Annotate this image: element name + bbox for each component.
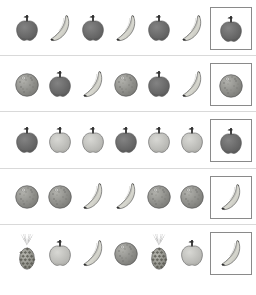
pattern-item bbox=[76, 173, 109, 219]
orange-icon bbox=[14, 181, 40, 211]
pattern-item bbox=[10, 173, 43, 219]
pattern-item bbox=[109, 5, 142, 51]
banana-icon bbox=[179, 13, 205, 43]
apple-dark-icon bbox=[146, 69, 172, 99]
apple-dark-icon bbox=[218, 14, 244, 44]
pattern-item bbox=[43, 117, 76, 163]
apple-light-icon bbox=[179, 238, 205, 268]
pattern-sequence bbox=[10, 56, 206, 111]
pattern-row bbox=[0, 0, 256, 56]
orange-icon bbox=[218, 70, 244, 100]
banana-icon bbox=[218, 238, 244, 268]
orange-icon bbox=[14, 69, 40, 99]
pattern-item bbox=[142, 173, 175, 219]
orange-icon bbox=[179, 181, 205, 211]
pattern-item bbox=[10, 61, 43, 107]
pineapple-icon bbox=[14, 234, 40, 272]
apple-dark-icon bbox=[47, 69, 73, 99]
orange-icon bbox=[113, 238, 139, 268]
orange-icon bbox=[47, 181, 73, 211]
banana-icon bbox=[80, 69, 106, 99]
pattern-item bbox=[109, 173, 142, 219]
pattern-item bbox=[142, 5, 175, 51]
pattern-item bbox=[10, 5, 43, 51]
pattern-row bbox=[0, 112, 256, 168]
pattern-sequence bbox=[10, 225, 206, 281]
banana-icon bbox=[113, 181, 139, 211]
apple-light-icon bbox=[47, 125, 73, 155]
banana-icon bbox=[80, 181, 106, 211]
pattern-row bbox=[0, 56, 256, 112]
pattern-item bbox=[142, 117, 175, 163]
pattern-item bbox=[109, 117, 142, 163]
banana-icon bbox=[113, 13, 139, 43]
pattern-item bbox=[76, 230, 109, 276]
apple-dark-icon bbox=[218, 126, 244, 156]
pattern-item bbox=[175, 117, 208, 163]
banana-icon bbox=[47, 13, 73, 43]
pattern-item bbox=[175, 230, 208, 276]
pattern-item bbox=[109, 61, 142, 107]
apple-light-icon bbox=[179, 125, 205, 155]
pattern-item bbox=[10, 117, 43, 163]
answer-box[interactable] bbox=[210, 176, 252, 219]
orange-icon bbox=[146, 181, 172, 211]
apple-light-icon bbox=[47, 238, 73, 268]
pattern-item bbox=[76, 117, 109, 163]
pattern-item bbox=[175, 5, 208, 51]
pattern-item bbox=[43, 5, 76, 51]
apple-light-icon bbox=[146, 125, 172, 155]
pattern-item bbox=[175, 173, 208, 219]
pattern-item bbox=[43, 61, 76, 107]
pattern-sequence bbox=[10, 0, 206, 55]
answer-box[interactable] bbox=[210, 63, 252, 106]
pattern-row bbox=[0, 225, 256, 281]
pattern-sequence bbox=[10, 112, 206, 167]
apple-dark-icon bbox=[14, 125, 40, 155]
banana-icon bbox=[179, 69, 205, 99]
pattern-item bbox=[175, 61, 208, 107]
pattern-sequence bbox=[10, 169, 206, 224]
worksheet-sheet bbox=[0, 0, 256, 295]
pattern-row bbox=[0, 169, 256, 225]
answer-box[interactable] bbox=[210, 232, 252, 275]
apple-dark-icon bbox=[80, 13, 106, 43]
pattern-item bbox=[142, 230, 175, 276]
pineapple-icon bbox=[146, 234, 172, 272]
pattern-item bbox=[142, 61, 175, 107]
pattern-item bbox=[76, 5, 109, 51]
apple-light-icon bbox=[80, 125, 106, 155]
answer-box[interactable] bbox=[210, 7, 252, 50]
pattern-item bbox=[10, 230, 43, 276]
pattern-item bbox=[109, 230, 142, 276]
apple-dark-icon bbox=[113, 125, 139, 155]
pattern-item bbox=[76, 61, 109, 107]
apple-dark-icon bbox=[146, 13, 172, 43]
orange-icon bbox=[113, 69, 139, 99]
pattern-item bbox=[43, 230, 76, 276]
apple-dark-icon bbox=[14, 13, 40, 43]
answer-box[interactable] bbox=[210, 119, 252, 162]
pattern-item bbox=[43, 173, 76, 219]
banana-icon bbox=[80, 238, 106, 268]
banana-icon bbox=[218, 182, 244, 212]
